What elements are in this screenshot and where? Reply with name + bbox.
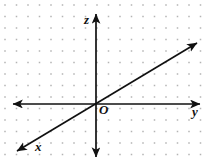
z-axis-label: z: [84, 13, 89, 26]
axes-vector-layer: [0, 0, 210, 166]
x-axis-line: [17, 43, 197, 151]
x-axis-label: x: [35, 140, 42, 153]
origin-label: O: [99, 103, 108, 116]
y-axis-label: y: [192, 105, 198, 118]
coordinate-axes-figure: z y x O: [0, 0, 210, 166]
